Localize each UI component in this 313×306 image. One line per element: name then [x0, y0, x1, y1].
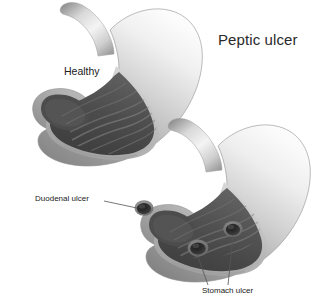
peptic-ulcer-figure: Peptic ulcer Healthy Duodenal ulcer Stom…: [0, 0, 313, 306]
duodenal-ulcer-crater: [135, 200, 154, 216]
label-duodenal-ulcer: Duodenal ulcer: [35, 195, 89, 203]
esophagus-ulcerated: [168, 118, 222, 172]
esophagus-healthy: [60, 2, 114, 56]
healthy-stomach-diagram: [33, 2, 203, 166]
stomach-ulcer-body-crater: [223, 221, 243, 237]
page-title: Peptic ulcer: [218, 32, 298, 47]
leader-line-duodenal-ulcer: [104, 201, 137, 208]
label-stomach-ulcer: Stomach ulcer: [202, 287, 253, 295]
ulcerated-stomach-diagram: [135, 118, 311, 282]
stomach-ulcer-antrum-crater: [188, 239, 209, 256]
label-healthy: Healthy: [64, 66, 100, 77]
